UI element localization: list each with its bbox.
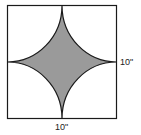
right-side-label: 10" <box>120 57 133 67</box>
geometry-figure: 10" 10" <box>0 0 141 135</box>
bottom-side-label: 10" <box>55 122 68 132</box>
